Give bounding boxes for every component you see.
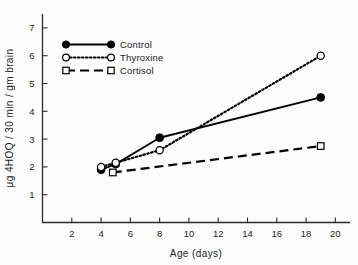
data-point-thyroxine [112, 159, 119, 166]
x-tick-label: 18 [301, 228, 312, 239]
legend-entry-cortisol: Cortisol [63, 65, 154, 76]
y-tick-label: 3 [29, 134, 34, 145]
data-point-thyroxine [97, 163, 104, 170]
y-axis-title: μg 4HOQ / 30 min / gm brain [4, 49, 15, 188]
legend-label-control: Control [120, 39, 152, 50]
y-tick-label: 5 [29, 78, 34, 89]
x-axis-title: Age (days) [170, 248, 222, 259]
data-point-cortisol [109, 169, 116, 176]
x-tick-label: 14 [242, 228, 253, 239]
legend-marker-cortisol-right [108, 67, 114, 73]
series-control [97, 94, 324, 174]
data-point-thyroxine [156, 147, 163, 154]
y-tick-label: 1 [29, 189, 34, 200]
legend-entry-control: Control [62, 39, 152, 50]
y-axis-ticks: 1234567 [29, 22, 47, 200]
chart-legend: Control Thyroxine Cortisol [62, 39, 163, 76]
x-tick-label: 10 [184, 228, 195, 239]
chart-figure: 1234567 2468101214161820 Control Thyroxi… [0, 0, 358, 265]
y-tick-label: 6 [29, 50, 34, 61]
legend-entry-thyroxine: Thyroxine [63, 52, 164, 63]
legend-label-thyroxine: Thyroxine [120, 52, 164, 63]
legend-marker-cortisol-left [63, 67, 69, 73]
legend-label-cortisol: Cortisol [120, 65, 154, 76]
data-point-cortisol [317, 143, 324, 150]
x-tick-label: 4 [98, 228, 103, 239]
series-line-control [101, 97, 321, 169]
data-point-control [156, 134, 164, 142]
x-axis-ticks: 2468101214161820 [69, 218, 341, 239]
x-tick-label: 12 [213, 228, 224, 239]
series-line-cortisol [113, 146, 321, 172]
y-tick-label: 4 [29, 106, 34, 117]
x-tick-label: 8 [157, 228, 162, 239]
x-tick-label: 2 [69, 228, 74, 239]
legend-marker-control-right [107, 41, 114, 48]
legend-marker-thyroxine-right [108, 54, 115, 61]
x-tick-label: 6 [128, 228, 133, 239]
y-tick-label: 7 [29, 22, 34, 33]
x-tick-label: 16 [271, 228, 282, 239]
x-tick-label: 20 [330, 228, 341, 239]
legend-marker-thyroxine-left [63, 54, 70, 61]
data-point-control [317, 94, 325, 102]
y-tick-label: 2 [29, 161, 34, 172]
legend-marker-control-left [62, 41, 69, 48]
data-point-thyroxine [317, 52, 324, 59]
line-chart-canvas: 1234567 2468101214161820 Control Thyroxi… [0, 0, 358, 265]
